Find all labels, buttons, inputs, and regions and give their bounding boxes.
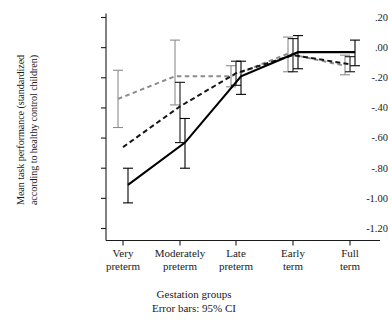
error-bars-note: Error bars: 95% CI xyxy=(0,302,388,315)
series-group-series-black-dashed xyxy=(175,39,355,143)
x-category-label-early-term: Early term xyxy=(263,247,323,272)
x-axis-title: Gestation groups xyxy=(0,288,388,301)
x-category-label-line-2: term xyxy=(263,260,323,273)
plot-area xyxy=(0,0,388,324)
chart-figure: Mean task performance (standardized acco… xyxy=(0,0,388,324)
x-category-label-late-preterm: Late preterm xyxy=(206,247,266,272)
series-group-series-grey-dashed xyxy=(113,37,350,127)
x-category-label-line-1: Late xyxy=(206,247,266,260)
x-category-label-full-term: Full term xyxy=(320,247,380,272)
x-category-label-line-1: Early xyxy=(263,247,323,260)
x-category-label-line-1: Full xyxy=(320,247,380,260)
x-category-label-line-2: preterm xyxy=(206,260,266,273)
x-category-label-line-2: term xyxy=(320,260,380,273)
